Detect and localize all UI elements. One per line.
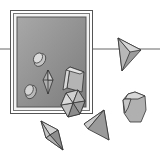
crystal-illustration bbox=[0, 0, 160, 160]
prism-block bbox=[63, 67, 84, 92]
bipyramid-crystal-lower bbox=[41, 121, 63, 150]
octagonal-prism bbox=[123, 92, 146, 122]
tetrahedron-lower bbox=[84, 110, 109, 140]
tetrahedron-right bbox=[118, 38, 141, 71]
